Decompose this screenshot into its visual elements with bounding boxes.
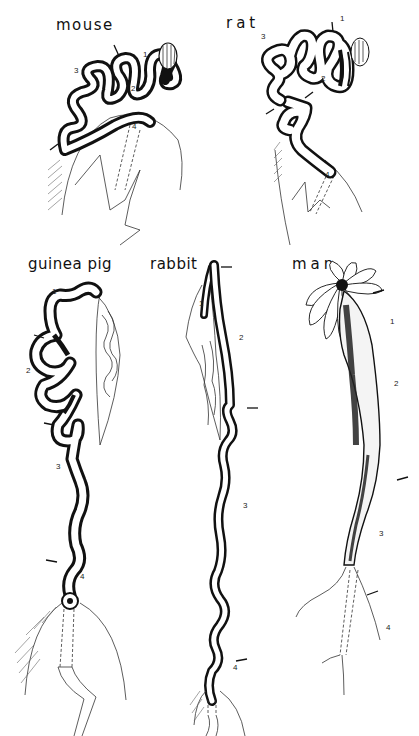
segment-label-3: 3 — [74, 66, 78, 75]
segment-label-3: 3 — [56, 462, 60, 471]
segment-label-4: 4 — [386, 623, 390, 632]
panel-mouse: mouse 1 2 3 4 — [0, 0, 210, 245]
segment-label-2: 2 — [26, 366, 30, 375]
segment-label-1: 1 — [143, 50, 147, 59]
mouse-oviduct-drawing — [0, 0, 210, 245]
segment-label-3: 3 — [261, 32, 265, 41]
segment-label-3: 3 — [379, 529, 383, 538]
segment-label-4: 4 — [132, 122, 136, 131]
segment-label-1: 1 — [340, 14, 344, 23]
segment-label-2: 2 — [394, 379, 398, 388]
segment-label-1: 1 — [52, 287, 56, 296]
panel-rat: rat 1 2 3 4 — [210, 0, 419, 245]
segment-label-3: 3 — [243, 501, 247, 510]
segment-label-1: 1 — [199, 299, 203, 308]
segment-label-1: 1 — [390, 317, 394, 326]
segment-label-4: 4 — [80, 572, 84, 581]
segment-label-2: 2 — [131, 84, 135, 93]
rabbit-oviduct-drawing — [150, 245, 280, 736]
panel-guinea-pig: guinea pig 1 2 3 4 — [0, 245, 150, 736]
segment-label-2: 2 — [321, 74, 325, 83]
segment-label-4: 4 — [325, 170, 329, 179]
panel-man: man 1 2 3 4 — [280, 245, 419, 736]
segment-label-2: 2 — [239, 333, 243, 342]
guinea-pig-oviduct-drawing — [0, 245, 150, 736]
segment-label-4: 4 — [233, 663, 237, 672]
panel-rabbit: rabbit 1 2 3 4 — [150, 245, 280, 736]
rat-oviduct-drawing — [210, 0, 419, 245]
man-oviduct-drawing — [280, 245, 419, 736]
